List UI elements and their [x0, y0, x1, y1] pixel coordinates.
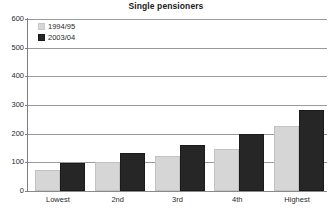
bar-group [214, 19, 264, 191]
bar-chart: Single pensioners 0100200300400500600 Lo… [0, 0, 332, 217]
bar-2nd-1994-95 [95, 162, 120, 191]
bar-4th-1994-95 [214, 149, 239, 191]
bar-4th-2003-04 [239, 134, 264, 191]
x-tick-label-2nd: 2nd [88, 196, 148, 204]
bar-group [155, 19, 205, 191]
gridline-0 [28, 191, 327, 192]
bar-highest-1994-95 [274, 126, 299, 191]
legend-label-1994-95: 1994/95 [48, 23, 75, 31]
legend-item-series-1: 1994/95 [38, 22, 75, 31]
bar-3rd-1994-95 [155, 156, 180, 191]
x-tick-label-4th: 4th [207, 196, 267, 204]
x-tick-label-3rd: 3rd [148, 196, 208, 204]
bar-2nd-2003-04 [120, 153, 145, 191]
x-tick-label-highest: Highest [267, 196, 327, 204]
bar-group [95, 19, 145, 191]
x-tick-label-lowest: Lowest [28, 196, 88, 204]
legend-item-series-2: 2003/04 [38, 33, 75, 42]
legend-swatch-icon-2003-04 [38, 34, 45, 41]
bar-3rd-2003-04 [180, 145, 205, 191]
bar-highest-2003-04 [299, 110, 324, 191]
bar-group [274, 19, 324, 191]
chart-title: Single pensioners [0, 1, 332, 11]
legend-swatch-icon-1994-95 [38, 23, 45, 30]
legend-label-2003-04: 2003/04 [48, 34, 75, 42]
plot-area [28, 19, 327, 191]
bar-lowest-1994-95 [35, 170, 60, 192]
bar-lowest-2003-04 [60, 163, 85, 191]
x-axis-tick-labels: Lowest2nd3rd4thHighest [28, 196, 327, 212]
chart-legend: 1994/95 2003/04 [38, 22, 75, 42]
bar-group [35, 19, 85, 191]
y-axis-tick-marks [0, 19, 28, 191]
